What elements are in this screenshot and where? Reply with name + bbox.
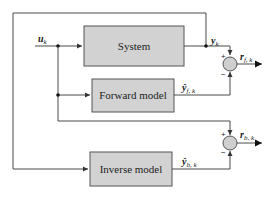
inverse-summing-junction: + − [221, 130, 237, 157]
forward-estimate-subscript: f, k [186, 87, 195, 95]
inverse-residual-subscript: b, k [244, 134, 255, 142]
inverse-model-label: Inverse model [100, 163, 163, 175]
svg-text:ŷf, k: ŷf, k [181, 82, 196, 95]
forward-summing-junction: + − [221, 52, 237, 79]
input-subscript: k [44, 38, 48, 46]
forward-model-block: Forward model [92, 79, 174, 112]
forward-residual-subscript: f, k [244, 56, 253, 64]
svg-text:rb, k: rb, k [240, 129, 255, 142]
forward-sum-plus: + [221, 52, 226, 61]
branch-point-forward [56, 93, 60, 97]
wire-input-to-inverse-sum [58, 121, 230, 135]
system-block: System [84, 26, 184, 66]
forward-model-label: Forward model [99, 89, 167, 101]
system-label: System [118, 40, 151, 52]
output-subscript: k [215, 40, 219, 48]
residual-generator-diagram: uk System yk Forward model ŷf, k + − rf,… [0, 0, 275, 201]
inverse-sum-plus: + [221, 130, 226, 139]
svg-text:ŷb, k: ŷb, k [181, 156, 197, 169]
input-signal: uk [35, 33, 82, 46]
inverse-sum-minus: − [221, 148, 226, 157]
svg-text:rf, k: rf, k [240, 51, 253, 64]
forward-sum-minus: − [221, 70, 226, 79]
branch-point-output [204, 44, 208, 48]
svg-text:uk: uk [38, 33, 48, 46]
inverse-model-block: Inverse model [90, 152, 172, 186]
inverse-estimate-subscript: b, k [186, 161, 197, 169]
